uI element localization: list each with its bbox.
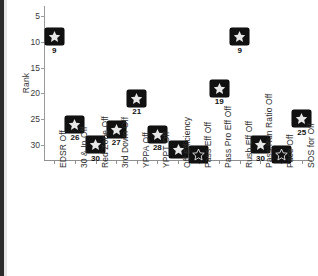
data-point-marker[interactable] (127, 90, 146, 107)
y-tick-label: 30 (22, 140, 40, 150)
x-tick-label: EDSR Off (58, 130, 68, 168)
y-tick-mark (41, 145, 45, 146)
rank-scatter-chart: Rank 51015202530 926302721281993025 EDSR… (0, 0, 318, 276)
data-point-marker[interactable] (210, 80, 229, 97)
x-tick-label: Pace Off (285, 134, 295, 168)
x-tick-mark (116, 161, 117, 164)
data-point-marker[interactable] (230, 28, 249, 45)
x-tick-label: Pass Pro Eff Off (223, 106, 233, 168)
y-tick-label: 5 (22, 11, 40, 21)
x-tick-mark (157, 161, 158, 164)
data-point-label: 19 (208, 97, 230, 106)
data-point-label: 9 (229, 46, 251, 55)
y-tick-mark (41, 16, 45, 17)
x-tick-label: Pass Eff Off (203, 122, 213, 168)
x-tick-label: 3rd Down Off (120, 117, 130, 168)
data-point-label: 9 (43, 46, 65, 55)
y-tick-label: 15 (22, 63, 40, 73)
page-edge-shadow (4, 0, 7, 276)
x-tick-label: YPPA Off (141, 132, 151, 168)
data-point-label: 21 (126, 107, 148, 116)
x-tick-mark (54, 161, 55, 164)
x-tick-label: 30 & In Off (79, 126, 89, 168)
x-tick-label: YPPT Off (161, 132, 171, 168)
x-tick-label: Rush Eff Off (244, 121, 254, 168)
y-tick-mark (41, 68, 45, 69)
x-tick-mark (240, 161, 241, 164)
x-tick-mark (75, 161, 76, 164)
x-tick-label: Red Zone Off (100, 116, 110, 168)
x-tick-mark (302, 161, 303, 164)
x-tick-label: SOS for Off (306, 123, 316, 168)
x-tick-label: Off Efficiency (182, 117, 192, 168)
x-tick-mark (219, 161, 220, 164)
y-tick-label: 10 (22, 37, 40, 47)
y-tick-mark (41, 93, 45, 94)
y-tick-label: 20 (22, 88, 40, 98)
x-tick-mark (137, 161, 138, 164)
y-tick-label: 25 (22, 114, 40, 124)
y-tick-mark (41, 119, 45, 120)
data-point-marker[interactable] (45, 28, 64, 45)
x-tick-mark (178, 161, 179, 164)
x-tick-label: Pass:Run Ratio Off (264, 94, 274, 168)
